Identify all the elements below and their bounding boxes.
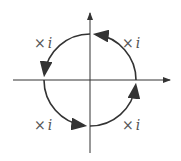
label-lower-left: ×i: [34, 117, 52, 133]
label-upper-right: ×i: [122, 35, 140, 51]
label-upper-left: ×i: [34, 35, 52, 51]
complex-plane-diagram: ×i ×i ×i ×i: [0, 0, 181, 161]
label-lower-right: ×i: [122, 117, 140, 133]
